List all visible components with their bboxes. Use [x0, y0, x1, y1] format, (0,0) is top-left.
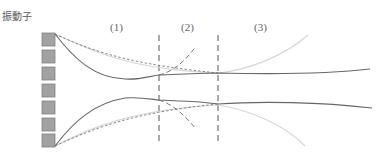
oscillator-1 — [42, 33, 55, 46]
dashed-curve-top — [55, 34, 218, 73]
light-curve-bottom — [55, 105, 305, 146]
oscillator-3 — [42, 67, 55, 80]
oscillator-2 — [42, 50, 55, 63]
oscillator-5 — [42, 101, 55, 114]
dashed-curve-bottom — [55, 104, 218, 146]
oscillator-array — [42, 33, 55, 147]
oscillator-7 — [42, 134, 55, 147]
wavefront-diagram — [0, 0, 382, 154]
oscillator-6 — [42, 118, 55, 131]
branch-dashed-bottom — [159, 100, 195, 128]
light-curve-top — [55, 34, 308, 73]
oscillator-4 — [42, 84, 55, 97]
